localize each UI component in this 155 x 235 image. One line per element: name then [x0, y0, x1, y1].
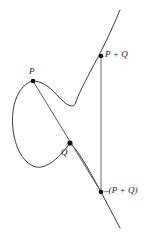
curve-canvas: [0, 0, 155, 235]
label-q: Q: [61, 148, 68, 157]
point-q: [67, 140, 72, 145]
elliptic-curve-figure: P Q P + Q –(P + Q): [0, 0, 155, 235]
point-p: [31, 79, 36, 84]
secant-line: [33, 81, 101, 192]
label-p: P: [29, 67, 35, 76]
point-p-plus-q: [99, 54, 104, 59]
label-neg-p-plus-q: –(P + Q): [104, 186, 138, 195]
point-neg-p-plus-q: [99, 190, 104, 195]
curve-branch-tail: [101, 192, 120, 228]
label-p-plus-q: P + Q: [105, 50, 128, 59]
